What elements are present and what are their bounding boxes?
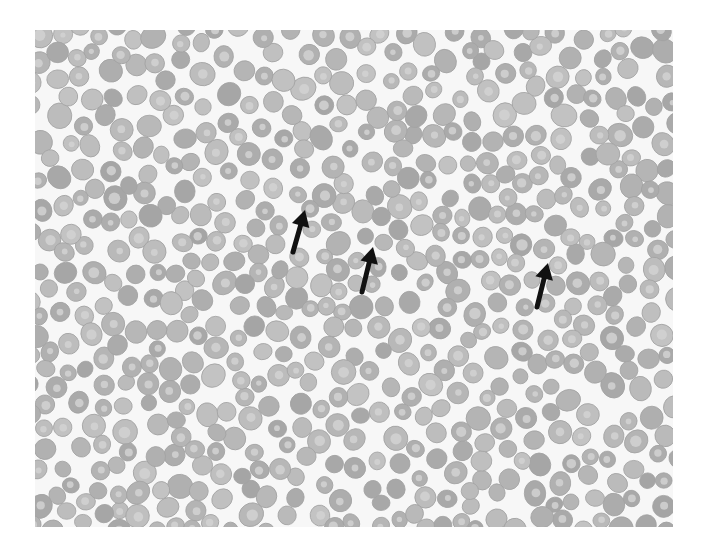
red-blood-cell <box>312 93 336 117</box>
red-blood-cell <box>263 318 291 345</box>
red-blood-cell <box>559 47 582 70</box>
red-blood-cell <box>534 326 563 355</box>
red-blood-cell <box>510 366 531 387</box>
red-blood-cell <box>90 30 108 45</box>
red-blood-cell <box>232 187 258 213</box>
red-blood-cell <box>437 155 458 176</box>
red-blood-cell <box>620 425 653 458</box>
red-blood-cell <box>275 346 293 362</box>
blood-smear-micrograph <box>35 30 673 527</box>
red-blood-cell <box>666 447 673 472</box>
red-blood-cell <box>369 257 386 277</box>
red-blood-cell <box>35 436 59 462</box>
red-blood-cell <box>220 163 238 180</box>
red-blood-cell <box>418 169 438 190</box>
red-blood-cell <box>593 513 610 527</box>
red-blood-cell <box>35 374 39 393</box>
red-blood-cell <box>74 358 96 381</box>
red-blood-cell <box>221 520 241 527</box>
red-blood-cell <box>594 67 613 87</box>
red-blood-cell <box>542 378 560 396</box>
red-blood-cell <box>521 269 542 290</box>
red-blood-cell <box>54 329 83 358</box>
red-blood-cell <box>446 381 469 404</box>
red-blood-cell <box>644 97 663 117</box>
red-blood-cell <box>187 60 217 89</box>
red-blood-cell <box>223 30 253 41</box>
red-blood-cell <box>457 153 479 175</box>
red-blood-cell <box>468 247 492 271</box>
red-blood-cell <box>503 30 525 40</box>
red-blood-cell <box>632 116 655 139</box>
red-blood-cell <box>136 115 161 138</box>
red-blood-cell <box>452 90 469 108</box>
red-blood-cell <box>383 73 400 89</box>
red-blood-cell <box>120 210 139 229</box>
red-blood-cell <box>35 96 40 114</box>
red-blood-cell <box>567 244 585 265</box>
red-blood-cell <box>461 109 484 133</box>
red-blood-cell <box>575 402 600 426</box>
red-blood-cell <box>655 473 672 489</box>
red-blood-cell <box>596 448 619 471</box>
red-blood-cell <box>489 246 509 267</box>
red-blood-cell <box>172 127 198 150</box>
red-blood-cell <box>380 376 402 400</box>
red-blood-cell <box>441 30 468 45</box>
red-blood-cell <box>410 316 433 339</box>
red-blood-cell <box>490 315 512 336</box>
red-blood-cell <box>221 249 247 273</box>
red-blood-cell <box>514 296 536 318</box>
red-blood-cell <box>69 157 95 182</box>
red-blood-cell <box>524 480 546 507</box>
red-blood-cell <box>150 264 167 281</box>
red-blood-cell <box>652 495 673 517</box>
red-blood-cell <box>343 317 364 339</box>
red-blood-cell <box>469 224 495 251</box>
red-blood-cell <box>35 306 49 327</box>
red-blood-cell <box>569 424 595 450</box>
red-blood-cell <box>232 59 257 83</box>
red-blood-cell <box>108 484 129 506</box>
red-blood-cell <box>52 417 73 438</box>
red-blood-cell <box>244 443 265 463</box>
red-blood-cell <box>662 284 673 315</box>
red-blood-cell <box>157 378 183 404</box>
red-blood-cell <box>144 410 172 438</box>
red-blood-cell <box>410 191 429 211</box>
red-blood-cell <box>205 316 225 336</box>
red-blood-cell <box>396 59 420 83</box>
red-blood-cell <box>496 398 517 418</box>
red-blood-cell <box>288 156 311 180</box>
red-blood-cell <box>66 63 92 89</box>
red-blood-cell <box>174 180 195 203</box>
red-blood-cell <box>544 416 575 447</box>
red-blood-cell <box>213 45 234 68</box>
red-blood-cell <box>241 171 260 189</box>
red-blood-cell <box>580 447 601 467</box>
red-blood-cell <box>334 92 360 118</box>
red-blood-cell <box>624 460 644 478</box>
red-blood-cell <box>255 201 276 222</box>
red-blood-cell <box>638 349 660 369</box>
red-blood-cell <box>35 358 57 379</box>
red-blood-cell <box>66 388 92 416</box>
red-blood-cell <box>35 71 42 94</box>
red-blood-cell <box>651 367 673 392</box>
red-blood-cell <box>192 167 213 188</box>
red-blood-cell <box>46 42 69 63</box>
red-blood-cell <box>340 453 370 482</box>
red-blood-cell <box>356 64 376 83</box>
red-blood-cell <box>522 429 546 451</box>
red-blood-cell <box>113 397 133 416</box>
red-blood-cell <box>157 355 184 383</box>
red-blood-cell <box>328 387 348 408</box>
red-blood-cell <box>522 121 550 149</box>
red-blood-cell <box>90 371 119 399</box>
red-blood-cell <box>480 342 512 373</box>
red-blood-cell <box>584 174 615 204</box>
red-blood-cell <box>81 207 105 231</box>
red-blood-cell <box>268 420 287 438</box>
red-blood-cell <box>328 70 356 97</box>
red-blood-cell <box>594 199 613 218</box>
